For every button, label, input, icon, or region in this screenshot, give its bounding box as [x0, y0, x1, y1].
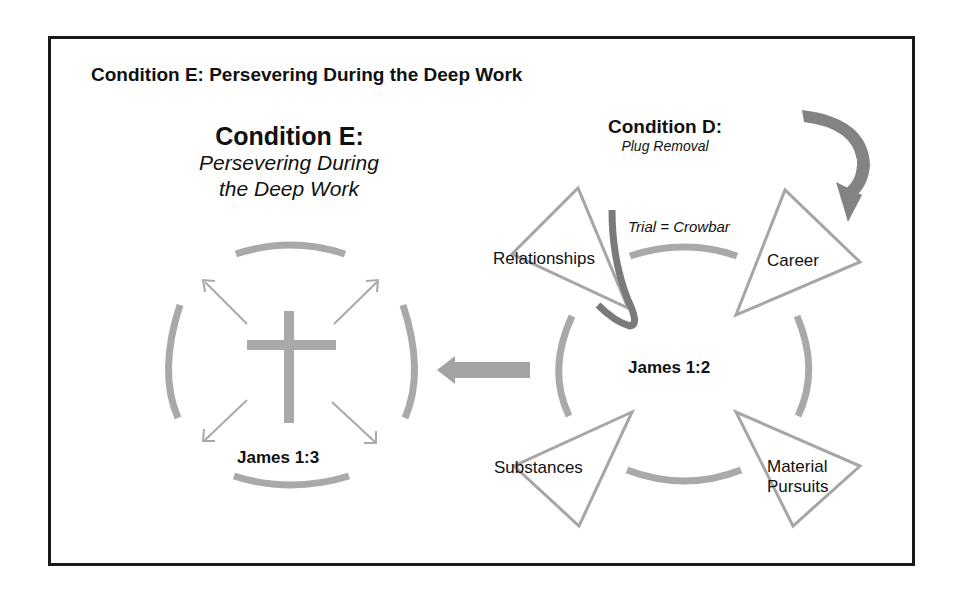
condition-d-subtitle: Plug Removal [600, 138, 730, 154]
curved-arrow-icon [802, 110, 870, 222]
condition-e-subtitle-line1: Persevering During [178, 150, 400, 176]
verse-james-1-3: James 1:3 [237, 448, 319, 468]
condition-e-title: Condition E: [202, 122, 377, 151]
plug-label-substances: Substances [494, 458, 583, 478]
plug-label-pursuits: Pursuits [767, 477, 828, 497]
condition-e-subtitle: Persevering During the Deep Work [178, 150, 400, 202]
arrow-down-right-icon [332, 402, 375, 442]
arrow-up-right-icon [334, 282, 377, 324]
page-header: Condition E: Persevering During the Deep… [91, 64, 522, 86]
triangle-relationships [512, 188, 628, 308]
arrow-down-left-icon [205, 400, 247, 440]
arrow-up-left-icon [205, 282, 247, 324]
diagram-graphics [0, 0, 961, 593]
plug-label-material-pursuits: Material Pursuits [767, 457, 828, 497]
crowbar-label: Trial = Crowbar [628, 218, 730, 235]
condition-d-title: Condition D: [600, 116, 730, 138]
plug-label-material: Material [767, 457, 828, 477]
plug-label-relationships: Relationships [493, 249, 595, 269]
arrow-left-icon [437, 356, 530, 384]
verse-james-1-2: James 1:2 [628, 358, 710, 378]
plug-label-career: Career [767, 251, 819, 271]
condition-e-subtitle-line2: the Deep Work [178, 176, 400, 202]
cross-icon [247, 311, 336, 423]
